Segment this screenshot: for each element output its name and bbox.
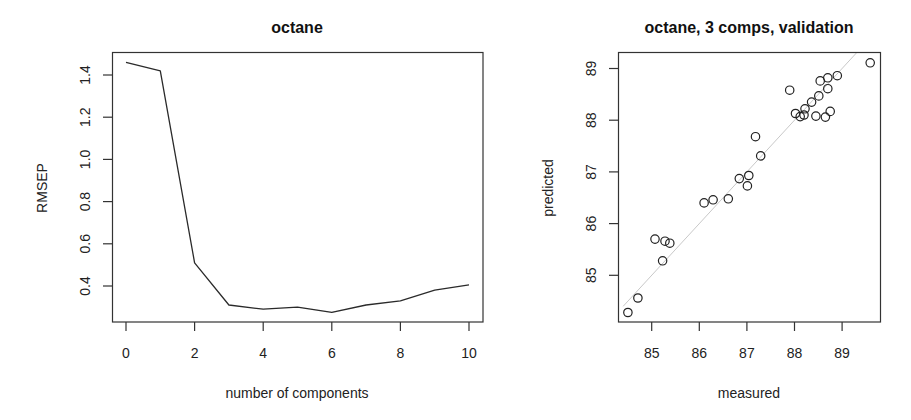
rmsep-line-chart: octane 0246810 0.40.60.81.01.21.4 number… <box>0 0 500 420</box>
data-point <box>661 237 669 245</box>
x-axis: 8586878889 <box>644 322 850 361</box>
scatter-points <box>624 59 875 317</box>
data-point <box>786 86 794 94</box>
y-tick-label: 88 <box>583 112 599 128</box>
x-tick-label: 10 <box>461 345 477 361</box>
y-tick-label: 1.2 <box>77 107 93 127</box>
data-point <box>724 195 732 203</box>
data-point <box>735 174 743 182</box>
data-point <box>709 196 717 204</box>
y-tick-label: 0.8 <box>77 192 93 212</box>
y-tick-label: 1.4 <box>77 65 93 85</box>
x-axis: 0246810 <box>122 322 477 361</box>
data-point <box>812 112 820 120</box>
y-axis: 8586878889 <box>583 61 619 284</box>
data-point <box>821 113 829 121</box>
y-axis: 0.40.60.81.01.21.4 <box>77 65 113 296</box>
data-point <box>815 92 823 100</box>
validation-scatter-chart: octane, 3 comps, validation 8586878889 8… <box>500 0 911 420</box>
y-tick-label: 0.4 <box>77 276 93 296</box>
data-point <box>757 152 765 160</box>
y-tick-label: 85 <box>583 267 599 283</box>
data-point <box>634 294 642 302</box>
reference-line <box>623 52 857 306</box>
chart-title: octane, 3 comps, validation <box>645 19 854 36</box>
y-tick-label: 1.0 <box>77 149 93 169</box>
rmsep-series-line <box>126 62 469 312</box>
identity-line <box>623 52 857 306</box>
x-axis-label: number of components <box>225 385 368 401</box>
y-tick-label: 89 <box>583 61 599 77</box>
y-tick-label: 0.6 <box>77 234 93 254</box>
x-axis-label: measured <box>718 385 780 401</box>
plot-frame <box>619 53 881 323</box>
y-tick-label: 86 <box>583 216 599 232</box>
x-tick-label: 89 <box>834 345 850 361</box>
x-tick-label: 8 <box>397 345 405 361</box>
x-tick-label: 87 <box>739 345 755 361</box>
data-point <box>833 72 841 80</box>
y-axis-label: RMSEP <box>34 163 50 213</box>
data-point <box>624 308 632 316</box>
x-tick-label: 88 <box>787 345 803 361</box>
data-point <box>751 133 759 141</box>
data-point <box>826 107 834 115</box>
data-point <box>824 85 832 93</box>
chart-title: octane <box>271 19 323 36</box>
data-point <box>745 171 753 179</box>
x-tick-label: 85 <box>644 345 660 361</box>
y-axis-label: predicted <box>540 159 556 217</box>
x-tick-label: 4 <box>259 345 267 361</box>
validation-scatter-panel: octane, 3 comps, validation 8586878889 8… <box>500 0 911 420</box>
plot-frame <box>113 53 484 323</box>
x-tick-label: 0 <box>122 345 130 361</box>
x-tick-label: 2 <box>191 345 199 361</box>
data-point <box>743 182 751 190</box>
data-point <box>666 239 674 247</box>
data-point <box>866 59 874 67</box>
x-tick-label: 86 <box>692 345 708 361</box>
data-point <box>700 199 708 207</box>
y-tick-label: 87 <box>583 164 599 180</box>
data-point <box>824 74 832 82</box>
x-tick-label: 6 <box>328 345 336 361</box>
rmsep-chart-panel: octane 0246810 0.40.60.81.01.21.4 number… <box>0 0 500 420</box>
data-point <box>651 235 659 243</box>
